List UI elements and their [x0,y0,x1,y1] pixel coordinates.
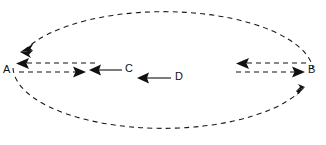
orbit-ellipse-group [13,12,313,129]
orbit-ellipse-bottom-arc [13,68,300,128]
vector-pair-at-a [16,58,95,78]
vector-diagram-svg: A B C D [0,0,326,145]
vector-c-group [89,65,122,76]
vector-pair-at-b [236,58,306,78]
figure-canvas: A B C D [0,0,326,145]
label-point-b: B [308,63,315,75]
label-point-a: A [3,63,11,75]
label-vector-d: D [175,70,183,82]
vector-d-group [137,73,171,84]
label-vector-c: C [125,62,133,74]
orbit-ellipse-top-arc [25,12,314,68]
